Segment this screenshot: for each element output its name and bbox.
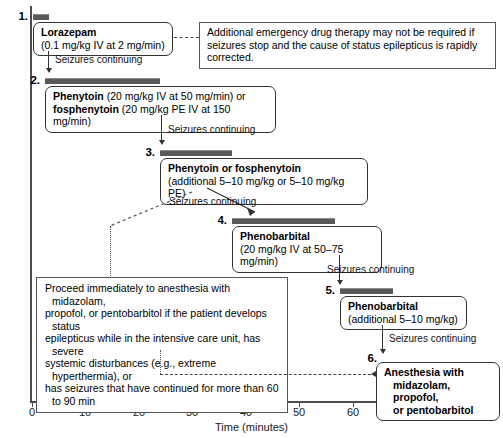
note-left-line-2: propofol, or pentobarbitol if the patien… [45, 307, 279, 332]
step-box-1: Lorazepam (0.1 mg/kg IV at 2 mg/min) [33, 22, 173, 56]
duration-bar-step-3 [160, 150, 232, 156]
duration-bar-step-1 [33, 14, 49, 20]
step-number-3: 3. [145, 146, 159, 158]
step-5-dose: (additional 5–10 mg/kg) [348, 313, 459, 326]
note-left-line-1: Proceed immediately to anesthesia with m… [45, 282, 279, 307]
note-connector-horizontal-dashed-to-step-6 [160, 374, 371, 375]
note-box-top-right: Additional emergency drug therapy may no… [199, 22, 496, 69]
duration-bar-step-2 [45, 78, 160, 84]
step-1-drug: Lorazepam [41, 26, 96, 38]
step-number-5: 5. [325, 284, 339, 296]
figure-canvas: 0 10 20 30 40 50 60 70 80 Time (minutes)… [0, 0, 503, 438]
step-3-drug: Phenytoin or fosphenytoin [168, 162, 301, 174]
x-axis-label-60: 60 [347, 406, 359, 418]
step-6-line-1: Anesthesia with [384, 366, 464, 378]
step-5-drug: Phenobarbital [348, 300, 418, 312]
step-number-4: 4. [217, 214, 231, 226]
note-left-line-4: systemic disturbances (e.g., extreme hyp… [45, 357, 279, 382]
step-box-6: Anesthesia with midazolam, propofol, or … [376, 362, 500, 421]
step-1-dose: (0.1 mg/kg IV at 2 mg/min) [41, 39, 165, 52]
note-top-right-text: Additional emergency drug therapy may no… [207, 26, 488, 64]
step-6-line-3: or pentobarbitol [393, 404, 474, 416]
connector-label-2-to-3: Seizures continuing [168, 124, 255, 135]
arrow-line-5-to-6 [382, 325, 383, 352]
note-connector-diagonal-dashed [106, 190, 196, 230]
step-2-drug-1: Phenytoin [53, 90, 104, 102]
note-left-line-5: has seizures that have continued for mor… [45, 382, 279, 407]
step-6-line-2: midazolam, propofol, [393, 379, 450, 404]
duration-bar-step-5 [340, 288, 393, 294]
note-connector-vertical-dotted-upper [110, 226, 111, 276]
step-2-drug-2: fosphenytoin [53, 103, 119, 115]
connector-label-1-to-2: Seizures continuing [55, 54, 142, 65]
arrow-line-2-to-3 [161, 115, 162, 143]
connector-label-4-to-5: Seizures continuing [327, 264, 414, 275]
step-number-1: 1. [18, 10, 32, 22]
arrowhead-1-to-2 [46, 68, 52, 73]
duration-bar-step-4 [232, 218, 335, 224]
step-4-drug: Phenobarbital [240, 230, 310, 242]
note-left-line-3: epilepticus while in the intensive care … [45, 332, 279, 357]
step-box-5: Phenobarbital (additional 5–10 mg/kg) [340, 296, 467, 330]
connector-label-5-to-6: Seizures continuing [389, 333, 476, 344]
step-2-dose-1: (20 mg/kg IV at 50 mg/min) or [104, 90, 246, 102]
step-number-2: 2. [30, 74, 44, 86]
arrowhead-2-to-3 [159, 140, 165, 145]
y-axis-line [30, 6, 32, 402]
note-connector-vertical-dotted-lower [160, 350, 161, 374]
x-axis-label-50: 50 [293, 406, 305, 418]
note-connector-dashed-line [174, 37, 199, 38]
note-box-left: Proceed immediately to anesthesia with m… [36, 277, 288, 413]
x-axis-title: Time (minutes) [0, 421, 503, 433]
x-axis-label-0: 0 [29, 406, 35, 418]
